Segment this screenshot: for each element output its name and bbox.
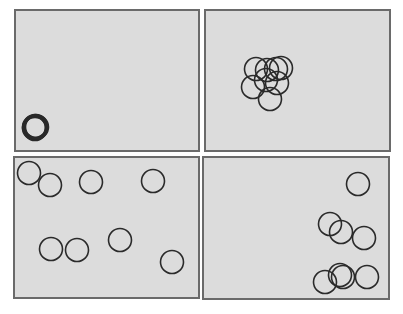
panel-top-left — [14, 9, 200, 152]
circles-layer — [14, 9, 200, 152]
circle — [18, 162, 41, 185]
circle — [347, 173, 370, 196]
circle — [161, 251, 184, 274]
circle — [242, 76, 265, 99]
circle — [39, 174, 62, 197]
circle — [66, 239, 89, 262]
circle — [353, 227, 376, 250]
circle — [80, 171, 103, 194]
circles-layer — [13, 156, 200, 299]
circle — [109, 229, 132, 252]
circle — [356, 266, 379, 289]
circle — [142, 170, 165, 193]
circles-layer — [202, 156, 390, 300]
circle — [40, 238, 63, 261]
panel-top-right — [204, 9, 391, 152]
panel-bottom-right — [202, 156, 390, 300]
panel-bottom-left — [13, 156, 200, 299]
circles-layer — [204, 9, 391, 152]
circle — [270, 57, 293, 80]
